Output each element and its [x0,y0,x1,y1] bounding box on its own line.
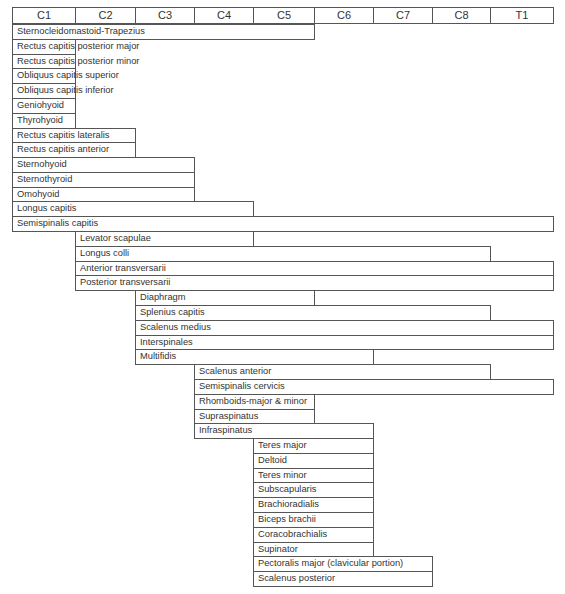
segmental-innervation-chart: C1C2C3C4C5C6C7C8T1Sternocleidomastoid-Tr… [0,0,565,594]
muscle-row: Supinator [253,542,374,558]
column-header-c5: C5 [253,7,315,24]
column-header-c2: C2 [75,7,136,24]
muscle-row: Levator scapulae [75,231,254,247]
muscle-row: Anterior transversarii [75,261,554,277]
muscle-row: Diaphragm [135,290,315,306]
muscle-row: Brachioradialis [253,497,374,513]
muscle-row: Teres minor [253,468,374,484]
muscle-row: Obliquus capitis superior [12,68,76,84]
muscle-row: Scalenus anterior [194,364,491,380]
muscle-row: Rectus capitis lateralis [12,128,136,144]
muscle-row: Supraspinatus [194,409,315,425]
muscle-row: Subscapularis [253,482,374,498]
muscle-row: Scalenus medius [135,320,554,336]
muscle-row: Posterior transversarii [75,275,554,291]
column-header-c1: C1 [12,7,76,24]
muscle-row: Rhomboids-major & minor [194,394,315,410]
muscle-row: Pectoralis major (clavicular portion) [253,556,433,572]
muscle-row: Thyrohyoid [12,113,76,129]
muscle-row: Sternothyroid [12,172,195,188]
muscle-row: Splenius capitis [135,305,491,321]
column-header-c4: C4 [194,7,254,24]
muscle-row: Sternocleidomastoid-Trapezius [12,24,315,40]
column-header-t1: T1 [490,7,554,24]
muscle-row: Semispinalis capitis [12,216,554,232]
column-header-c6: C6 [314,7,374,24]
muscle-row: Semispinalis cervicis [194,379,554,395]
muscle-row: Sternohyoid [12,157,195,173]
muscle-row: Multifidis [135,349,374,365]
muscle-row: Interspinales [135,335,554,351]
muscle-row: Deltoid [253,453,374,469]
muscle-row: Biceps brachii [253,512,374,528]
column-header-c7: C7 [373,7,433,24]
muscle-row: Teres major [253,438,374,454]
muscle-row: Infraspinatus [194,423,374,439]
muscle-row: Obliquus capitis inferior [12,83,76,99]
muscle-row: Rectus capitis posterior major [12,39,76,55]
muscle-row: Omohyoid [12,187,195,203]
muscle-row: Rectus capitis anterior [12,142,136,158]
muscle-row: Rectus capitis posterior minor [12,54,76,70]
muscle-row: Longus colli [75,246,491,262]
muscle-row: Longus capitis [12,201,254,217]
muscle-row: Coracobrachialis [253,527,374,543]
column-header-c3: C3 [135,7,195,24]
muscle-row: Geniohyoid [12,98,76,114]
muscle-row: Scalenus posterior [253,571,433,587]
column-header-c8: C8 [432,7,491,24]
